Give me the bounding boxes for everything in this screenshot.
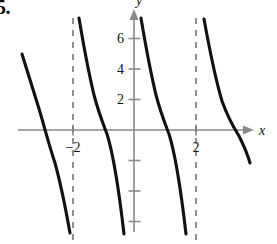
x-tick-label-2: 2 bbox=[193, 140, 200, 155]
figure-container: 5. bbox=[0, 0, 277, 244]
x-axis-label: x bbox=[258, 123, 266, 138]
curve-branch-4 bbox=[204, 19, 250, 163]
y-axis-arrow-icon bbox=[130, 9, 139, 20]
y-tick-label-4: 4 bbox=[117, 62, 124, 77]
y-axis-label: y bbox=[134, 0, 143, 8]
curve-branch-2 bbox=[79, 18, 124, 234]
y-tick-label-6: 6 bbox=[117, 31, 124, 46]
axes-group bbox=[18, 9, 254, 232]
curve-branch-1 bbox=[22, 54, 70, 233]
axis-name-labels-group: x y bbox=[134, 0, 266, 138]
cotangent-graph-figure: −2 2 2 4 6 x y bbox=[0, 0, 277, 244]
y-tick-label-2: 2 bbox=[117, 92, 124, 107]
curve-branch-3 bbox=[141, 18, 186, 234]
curve-branches-group bbox=[22, 18, 250, 234]
x-axis-arrow-icon bbox=[243, 126, 254, 135]
x-tick-label-minus2: −2 bbox=[66, 140, 81, 155]
